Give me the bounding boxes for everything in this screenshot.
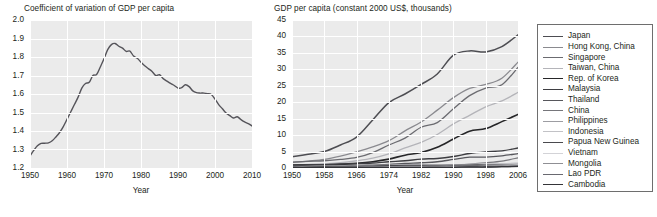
x-axis-tick-label: 2000 xyxy=(206,172,224,180)
x-axis-title-left: Year xyxy=(133,186,150,195)
legend-item-label: Thailand xyxy=(568,96,599,104)
legend-item-label: Indonesia xyxy=(568,128,604,136)
legend-item-label: China xyxy=(568,107,589,115)
legend-box: JapanHong Kong, ChinaSingaporeTaiwan, Ch… xyxy=(537,24,653,192)
x-axis-tick-label: 1998 xyxy=(477,172,495,180)
plot-area-left xyxy=(30,20,252,168)
y-axis-tick-label: 10 xyxy=(277,131,286,139)
y-axis-tick-label: 1.5 xyxy=(13,109,24,117)
plot-area-right xyxy=(292,20,518,168)
legend-item[interactable]: China xyxy=(543,105,653,116)
legend-item[interactable]: Hong Kong, China xyxy=(543,42,653,53)
legend-line-swatch xyxy=(543,110,563,111)
series-lines-right xyxy=(292,20,518,168)
legend-item[interactable]: Japan xyxy=(543,31,653,42)
gridline-horizontal xyxy=(292,20,518,21)
legend-item[interactable]: Lao PDR xyxy=(543,169,653,180)
y-axis-tick-label: 45 xyxy=(277,16,286,24)
y-axis-tick-label: 15 xyxy=(277,115,286,123)
gridline-horizontal xyxy=(292,86,518,87)
gridline-vertical xyxy=(486,20,487,168)
y-axis-tick-label: 20 xyxy=(277,98,286,106)
gridline-vertical xyxy=(389,20,390,168)
legend-line-swatch xyxy=(543,153,563,154)
x-axis-tick-label: 1950 xyxy=(283,172,301,180)
x-axis-tick-label: 2010 xyxy=(243,172,261,180)
panel-title-left: Coefficient of variation of GDP per capi… xyxy=(24,4,174,14)
legend-line-swatch xyxy=(543,131,563,132)
legend-item[interactable]: Thailand xyxy=(543,95,653,106)
legend-item-label: Cambodia xyxy=(568,181,605,189)
legend-item[interactable]: Indonesia xyxy=(543,126,653,137)
legend-item[interactable]: Malaysia xyxy=(543,84,653,95)
gridline-vertical xyxy=(30,20,31,168)
y-axis-tick-label: 1.6 xyxy=(13,90,24,98)
x-axis-tick-label: 2006 xyxy=(509,172,527,180)
legend-item-label: Papua New Guinea xyxy=(568,138,639,146)
y-axis-tick-label: 1.7 xyxy=(13,72,24,80)
x-axis-tick-label: 1950 xyxy=(21,172,39,180)
legend-line-swatch xyxy=(543,68,563,69)
gridline-horizontal xyxy=(292,36,518,37)
legend-item-label: Singapore xyxy=(568,54,605,62)
x-axis-ticks-right: 19501958196619741982199019982006 xyxy=(268,172,530,184)
legend-line-swatch xyxy=(543,36,563,37)
chart-panel-coefficient-of-variation: Coefficient of variation of GDP per capi… xyxy=(0,0,268,217)
x-axis-tick-label: 1980 xyxy=(132,172,150,180)
gridline-horizontal xyxy=(292,152,518,153)
legend-line-swatch xyxy=(543,47,563,48)
panel-title-right: GDP per capita (constant 2000 US$, thous… xyxy=(274,4,452,14)
x-axis-tick-label: 1974 xyxy=(380,172,398,180)
legend-item[interactable]: Vietnam xyxy=(543,148,653,159)
legend-item[interactable]: Cambodia xyxy=(543,179,653,190)
gridline-vertical xyxy=(215,20,216,168)
legend-item-label: Hong Kong, China xyxy=(568,43,635,51)
y-axis-tick-label: 1.3 xyxy=(13,146,24,154)
gridline-horizontal xyxy=(292,119,518,120)
y-axis-tick-label: 1.4 xyxy=(13,127,24,135)
x-axis-tick-label: 1966 xyxy=(347,172,365,180)
x-axis-tick-label: 1990 xyxy=(444,172,462,180)
legend-item[interactable]: Taiwan, China xyxy=(543,63,653,74)
legend-item[interactable]: Philippines xyxy=(543,116,653,127)
legend-line-swatch xyxy=(543,163,563,164)
y-axis-tick-label: 25 xyxy=(277,82,286,90)
gridline-horizontal xyxy=(292,135,518,136)
gridline-vertical xyxy=(324,20,325,168)
gridline-vertical xyxy=(453,20,454,168)
legend-line-swatch xyxy=(543,57,563,58)
legend-item-label: Philippines xyxy=(568,117,608,125)
gridline-horizontal xyxy=(292,53,518,54)
legend-item[interactable]: Singapore xyxy=(543,52,653,63)
legend-item-label: Rep. of Korea xyxy=(568,75,619,83)
y-axis-tick-label: 35 xyxy=(277,49,286,57)
gridline-vertical xyxy=(104,20,105,168)
y-axis-tick-label: 2.0 xyxy=(13,16,24,24)
gridline-horizontal xyxy=(292,102,518,103)
x-axis-tick-label: 1990 xyxy=(169,172,187,180)
legend-item[interactable]: Papua New Guinea xyxy=(543,137,653,148)
gridline-vertical xyxy=(421,20,422,168)
x-axis-title-right: Year xyxy=(397,186,414,195)
gridline-vertical xyxy=(357,20,358,168)
chart-panel-gdp-per-capita: GDP per capita (constant 2000 US$, thous… xyxy=(268,0,530,217)
x-axis-tick-label: 1982 xyxy=(412,172,430,180)
gridline-vertical xyxy=(292,20,293,168)
y-axis-ticks-left: 1.21.31.41.51.61.71.81.92.0 xyxy=(2,0,28,217)
legend-line-swatch xyxy=(543,78,563,79)
legend-line-swatch xyxy=(543,142,563,143)
legend-item-label: Mongolia xyxy=(568,160,601,168)
y-axis-tick-label: 40 xyxy=(277,32,286,40)
legend-panel: JapanHong Kong, ChinaSingaporeTaiwan, Ch… xyxy=(534,0,657,217)
legend-item[interactable]: Mongolia xyxy=(543,158,653,169)
x-axis-tick-label: 1958 xyxy=(315,172,333,180)
legend-item[interactable]: Rep. of Korea xyxy=(543,73,653,84)
y-axis-tick-label: 1.8 xyxy=(13,53,24,61)
legend-item-label: Taiwan, China xyxy=(568,64,619,72)
two-panel-line-chart-figure: Coefficient of variation of GDP per capi… xyxy=(0,0,657,217)
legend-line-swatch xyxy=(543,184,563,185)
x-axis-ticks-left: 1950196019701980199020002010 xyxy=(0,172,268,184)
legend-line-swatch xyxy=(543,174,563,175)
legend-line-swatch xyxy=(543,121,563,122)
gridline-horizontal xyxy=(292,69,518,70)
